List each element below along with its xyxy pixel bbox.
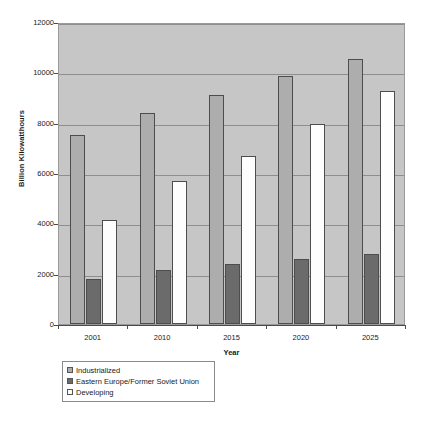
x-tick-label: 2001 [63, 333, 123, 342]
bars-layer [59, 24, 404, 324]
x-tick-label: 2015 [202, 333, 262, 342]
bar [364, 254, 379, 324]
y-tick-mark [54, 124, 58, 125]
y-tick-label: 2000 [14, 271, 54, 279]
x-tick-label: 2025 [340, 333, 400, 342]
x-tick-mark [336, 325, 337, 329]
legend-item[interactable]: Developing [67, 387, 211, 397]
y-tick-label: 0 [14, 321, 54, 329]
y-tick-mark [54, 174, 58, 175]
x-axis-line [58, 325, 406, 326]
x-tick-label: 2020 [271, 333, 331, 342]
x-tick-mark [405, 325, 406, 329]
plot-area [58, 23, 405, 325]
y-tick-label: 10000 [14, 69, 54, 77]
y-tick-mark [54, 275, 58, 276]
x-tick-mark [266, 325, 267, 329]
y-tick-label: 12000 [14, 19, 54, 27]
legend-label: Eastern Europe/Former Soviet Union [76, 377, 199, 386]
y-tick-mark [54, 73, 58, 74]
legend-swatch-icon [67, 367, 73, 373]
x-tick-mark [127, 325, 128, 329]
x-tick-mark [58, 325, 59, 329]
y-tick-mark [54, 23, 58, 24]
legend-item[interactable]: Industrialized [67, 365, 211, 375]
legend-swatch-icon [67, 389, 73, 395]
legend-item[interactable]: Eastern Europe/Former Soviet Union [67, 376, 211, 386]
bar [380, 91, 395, 324]
bar-group [59, 24, 406, 324]
x-tick-mark [197, 325, 198, 329]
legend-label: Developing [76, 388, 114, 397]
chart-legend: IndustrializedEastern Europe/Former Sovi… [62, 361, 215, 402]
y-axis-ticks: 020004000600080001000012000 [14, 23, 54, 325]
y-tick-label: 6000 [14, 170, 54, 178]
x-tick-label: 2010 [132, 333, 192, 342]
y-tick-mark [54, 224, 58, 225]
bar-chart: Billion Kilowatthours 020004000600080001… [0, 0, 431, 425]
legend-swatch-icon [67, 378, 73, 384]
y-tick-label: 4000 [14, 220, 54, 228]
bar [348, 59, 363, 325]
legend-label: Industrialized [76, 366, 120, 375]
y-tick-label: 8000 [14, 120, 54, 128]
x-axis-title: Year [58, 348, 405, 357]
